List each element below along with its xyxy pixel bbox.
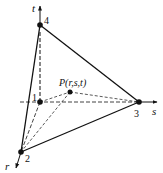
r-axis-label: r bbox=[5, 160, 10, 172]
vertex-2-label: 2 bbox=[25, 153, 30, 164]
t-axis-label: t bbox=[32, 2, 36, 14]
vertex-1-label: 1 bbox=[32, 92, 37, 103]
s-axis-label: s bbox=[152, 105, 156, 117]
point-p-label: P(r,s,t) bbox=[58, 77, 87, 89]
tetrahedron-diagram: t s r 4 1 3 2 P(r,s,t) bbox=[0, 0, 163, 173]
vertex-4-label: 4 bbox=[44, 15, 49, 26]
vertex-2 bbox=[18, 149, 24, 155]
tetrahedron-edges bbox=[21, 25, 139, 152]
vertex-3-label: 3 bbox=[134, 108, 139, 119]
vertex-3 bbox=[136, 99, 142, 105]
vertex-1 bbox=[37, 99, 43, 105]
vertex-4 bbox=[37, 22, 43, 28]
point-p bbox=[68, 90, 73, 95]
